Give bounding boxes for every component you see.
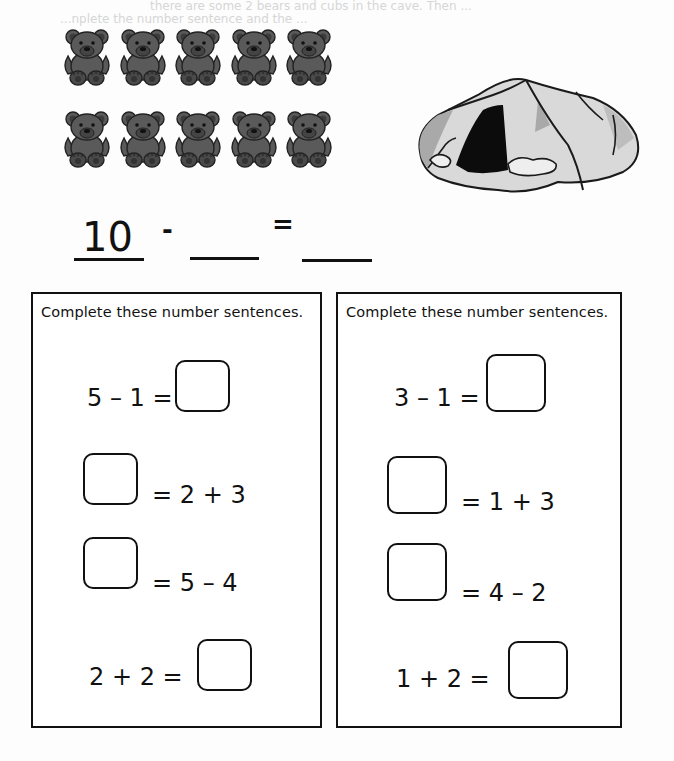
number-sentence-row: = 4 – 2 — [387, 543, 547, 601]
main-equation: 10 - = — [0, 205, 674, 275]
teddy-bear-icon — [118, 110, 168, 168]
number-sentence-row: 2 + 2 = — [89, 639, 252, 691]
number-sentence-row: = 2 + 3 — [83, 453, 246, 505]
panel-title: Complete these number sentences. — [41, 304, 303, 320]
answer-box[interactable] — [197, 639, 252, 691]
expression: = 1 + 3 — [461, 488, 555, 516]
teddy-bear-icon — [118, 28, 168, 86]
number-sentence-row: = 1 + 3 — [387, 456, 555, 514]
number-sentence-row: = 5 – 4 — [83, 537, 238, 589]
expression: 5 – 1 = — [87, 384, 173, 412]
number-sentence-row: 3 – 1 = — [394, 354, 546, 412]
expression: 1 + 2 = — [396, 665, 490, 693]
teddy-bear-icon — [173, 28, 223, 86]
answer-box[interactable] — [83, 453, 138, 505]
number-sentence-row: 5 – 1 = — [87, 360, 230, 412]
answer-box[interactable] — [486, 354, 546, 412]
answer-box[interactable] — [175, 360, 230, 412]
teddy-bear-icon — [284, 28, 334, 86]
number-sentences-panel-left: Complete these number sentences. 5 – 1 =… — [31, 292, 322, 728]
teddy-bear-icon — [62, 110, 112, 168]
expression: 3 – 1 = — [394, 384, 480, 412]
teddy-bear-icon — [173, 110, 223, 168]
expression: = 4 – 2 — [461, 579, 547, 607]
expression: 2 + 2 = — [89, 663, 183, 691]
panel-title: Complete these number sentences. — [346, 304, 608, 320]
answer-box[interactable] — [83, 537, 138, 589]
teddy-bear-icon — [284, 110, 334, 168]
minus-sign: - — [162, 217, 173, 243]
number-sentence-row: 1 + 2 = — [396, 641, 568, 699]
answer-box[interactable] — [387, 543, 447, 601]
equals-sign: = — [272, 211, 294, 237]
equation-blank-2[interactable] — [190, 257, 259, 260]
bleed-through-line: ...nplete the number sentence and the ..… — [0, 13, 674, 26]
teddy-bear-icon — [229, 28, 279, 86]
cave-icon — [408, 60, 648, 200]
answer-box[interactable] — [387, 456, 447, 514]
equation-blank-3[interactable] — [302, 259, 372, 262]
answer-box[interactable] — [508, 641, 568, 699]
expression: = 2 + 3 — [152, 481, 246, 509]
bleed-through-text: there are some 2 bears and cubs in the c… — [0, 0, 674, 26]
bears-illustration — [62, 28, 342, 176]
equation-blank-1-underline — [74, 258, 144, 261]
number-sentences-panel-right: Complete these number sentences. 3 – 1 =… — [336, 292, 622, 728]
expression: = 5 – 4 — [152, 569, 238, 597]
teddy-bear-icon — [229, 110, 279, 168]
teddy-bear-icon — [62, 28, 112, 86]
equation-start-number: 10 — [82, 215, 133, 259]
